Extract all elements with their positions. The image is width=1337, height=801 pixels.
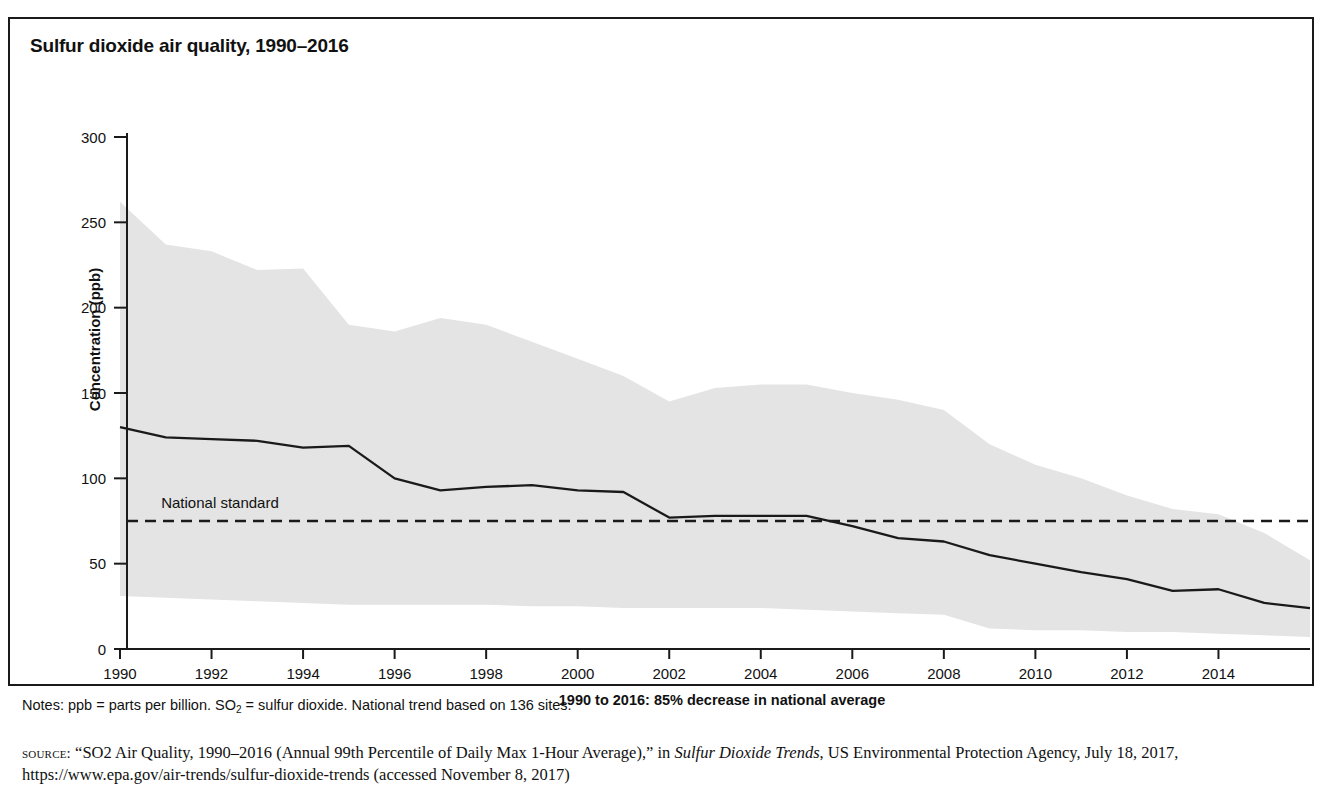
svg-text:1994: 1994 bbox=[286, 665, 319, 682]
svg-text:0: 0 bbox=[98, 641, 106, 658]
svg-text:2010: 2010 bbox=[1019, 665, 1052, 682]
notes-subscript: 2 bbox=[236, 704, 242, 715]
source-block: source: “SO2 Air Quality, 1990–2016 (Ann… bbox=[22, 742, 1322, 785]
source-publication-title: Sulfur Dioxide Trends bbox=[674, 743, 819, 762]
svg-text:2012: 2012 bbox=[1110, 665, 1143, 682]
x-axis-ticks: 1990199219941996199820002002200420062008… bbox=[103, 649, 1235, 682]
chart-svg: 050100150200250300 199019921994199619982… bbox=[10, 19, 1312, 684]
svg-text:1992: 1992 bbox=[195, 665, 228, 682]
source-label: source: bbox=[22, 745, 71, 761]
band-range-area bbox=[120, 202, 1310, 637]
svg-text:2000: 2000 bbox=[561, 665, 594, 682]
svg-text:1990: 1990 bbox=[103, 665, 136, 682]
svg-text:2004: 2004 bbox=[744, 665, 777, 682]
svg-text:2002: 2002 bbox=[653, 665, 686, 682]
plot-area: 050100150200250300 199019921994199619982… bbox=[10, 19, 1312, 684]
source-part-1: “SO2 Air Quality, 1990–2016 (Annual 99th… bbox=[71, 743, 675, 762]
national-standard-label: National standard bbox=[161, 494, 279, 511]
notes-suffix: = sulfur dioxide. National trend based o… bbox=[242, 697, 572, 713]
svg-text:50: 50 bbox=[89, 555, 106, 572]
svg-text:100: 100 bbox=[81, 470, 106, 487]
figure-frame: Sulfur dioxide air quality, 1990–2016 05… bbox=[8, 17, 1314, 686]
notes-prefix: Notes: ppb = parts per billion. SO bbox=[22, 697, 236, 713]
svg-text:2006: 2006 bbox=[836, 665, 869, 682]
svg-text:1998: 1998 bbox=[469, 665, 502, 682]
svg-text:2014: 2014 bbox=[1202, 665, 1235, 682]
svg-text:300: 300 bbox=[81, 129, 106, 146]
svg-text:1996: 1996 bbox=[378, 665, 411, 682]
svg-text:2008: 2008 bbox=[927, 665, 960, 682]
notes-line: Notes: ppb = parts per billion. SO2 = su… bbox=[22, 697, 572, 713]
y-axis-title: Concentration (ppb) bbox=[86, 210, 103, 470]
